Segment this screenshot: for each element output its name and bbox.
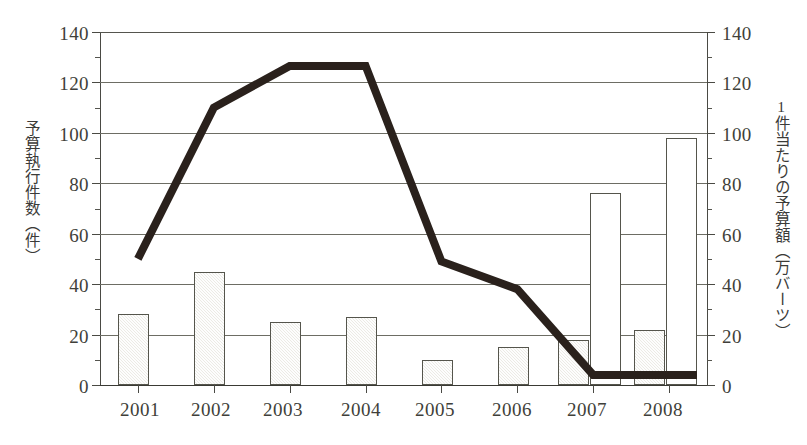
x-tick-label-2001: 2001 [106,400,174,419]
tick-minor-right-50 [707,259,712,260]
y-tick-label-left-100: 100 [59,125,89,144]
y-tick-label-left-60: 60 [69,226,89,245]
x-tick-4 [366,385,367,393]
y-tick-label-right-60: 60 [722,226,742,245]
line-path-budget-per-case [138,66,697,375]
y-tick-label-right-0: 0 [722,377,732,396]
x-tick-7 [593,385,594,393]
y-tick-label-left-120: 120 [59,74,89,93]
tick-left-60 [92,234,100,235]
x-tick-label-2004: 2004 [327,400,395,419]
tick-right-100 [707,133,715,134]
x-tick-label-2002: 2002 [177,400,245,419]
y-tick-label-left-140: 140 [59,24,89,43]
right-axis-title: 1件当たりの予算額（万バーツ） [772,98,790,339]
y-tick-label-left-80: 80 [69,175,89,194]
line-series-layer [100,32,707,385]
x-tick-label-2007: 2007 [553,400,621,419]
left-axis-title: 予算執行件数（件） [22,120,40,264]
tick-right-80 [707,183,715,184]
line-series-budget-per-case [100,32,707,385]
tick-minor-right-70 [707,209,712,210]
tick-left-120 [92,82,100,83]
chart-container: 予算執行件数（件） 1件当たりの予算額（万バーツ） 140 120 100 80… [0,0,807,445]
y-tick-label-right-100: 100 [722,125,752,144]
x-tick-6 [517,385,518,393]
y-tick-label-left-20: 20 [69,327,89,346]
tick-left-40 [92,284,100,285]
y-tick-label-left-40: 40 [69,276,89,295]
plot-area [100,32,707,385]
tick-minor-right-90 [707,158,712,159]
tick-right-60 [707,234,715,235]
x-axis-line [100,385,707,386]
tick-left-100 [92,133,100,134]
tick-left-0 [92,385,100,386]
tick-right-140 [707,32,715,33]
tick-minor-right-30 [707,309,712,310]
tick-right-20 [707,335,715,336]
tick-left-20 [92,335,100,336]
y-tick-label-left-0: 0 [79,377,89,396]
y-tick-label-right-40: 40 [722,276,742,295]
x-tick-3 [290,385,291,393]
x-tick-1 [138,385,139,393]
x-tick-8 [669,385,670,393]
tick-minor-right-10 [707,360,712,361]
y-tick-label-right-20: 20 [722,327,742,346]
tick-minor-right-110 [707,108,712,109]
tick-right-120 [707,82,715,83]
x-tick-5 [441,385,442,393]
x-tick-label-2005: 2005 [401,400,469,419]
tick-right-0 [707,385,715,386]
y-tick-label-right-80: 80 [722,175,742,194]
y-tick-label-right-120: 120 [722,74,752,93]
x-tick-label-2003: 2003 [249,400,317,419]
tick-right-40 [707,284,715,285]
tick-minor-right-130 [707,57,712,58]
tick-left-140 [92,32,100,33]
x-tick-2 [214,385,215,393]
x-tick-label-2008: 2008 [629,400,697,419]
x-tick-label-2006: 2006 [478,400,546,419]
y-tick-label-right-140: 140 [722,24,752,43]
tick-left-80 [92,183,100,184]
